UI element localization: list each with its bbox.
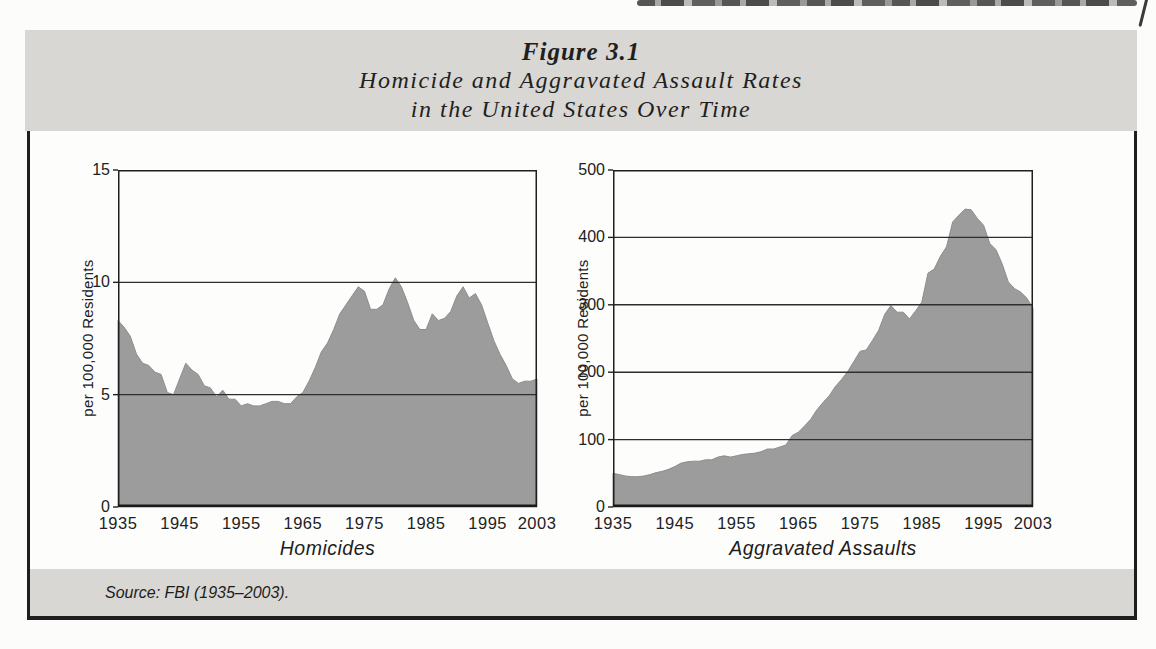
aggravated-assaults-x-tick-label-1975: 1975 [841,514,880,533]
homicides-chart: per 100,000 Residents Homicides 05101519… [118,170,537,507]
aggravated-assaults-x-tick-label-1995: 1995 [964,514,1003,533]
page-corner-mark [1138,0,1148,27]
homicides-x-tick-label-1955: 1955 [222,514,261,533]
homicides-y-tick-label-10: 10 [92,272,110,292]
aggravated-assaults-x-tick-label-1945: 1945 [655,514,694,533]
aggravated-assaults-y-tick-label-400: 400 [578,227,605,247]
source-band: Source: FBI (1935–2003). [30,569,1134,616]
homicides-caption: Homicides [280,537,376,560]
aggravated-assaults-y-tick-label-500: 500 [578,160,605,180]
aggravated-assaults-area [613,209,1033,507]
aggravated-assaults-x-tick-label-1935: 1935 [594,514,633,533]
homicides-x-tick-label-1975: 1975 [345,514,384,533]
homicides-x-tick-label-1945: 1945 [160,514,199,533]
aggravated-assaults-x-tick-label-1955: 1955 [717,514,756,533]
homicides-x-tick-label-2003: 2003 [518,514,557,533]
figure-3-1: Figure 3.1 Homicide and Aggravated Assau… [27,30,1137,620]
homicides-y-tick-label-5: 5 [101,385,110,405]
homicides-x-tick-label-1985: 1985 [407,514,446,533]
aggravated-assaults-x-tick-label-2003: 2003 [1014,514,1053,533]
aggravated-assaults-y-tick-label-100: 100 [578,430,605,450]
figure-title-line-1: Homicide and Aggravated Assault Rates [25,66,1137,95]
aggravated-assaults-x-tick-label-1965: 1965 [779,514,818,533]
figure-number: Figure 3.1 [25,37,1137,66]
homicides-area [118,278,537,507]
source-text: Source: FBI (1935–2003). [105,584,289,602]
scanned-figure-page: Figure 3.1 Homicide and Aggravated Assau… [0,0,1156,649]
figure-body: per 100,000 Residents Homicides 05101519… [27,131,1137,620]
figure-title-line-2: in the United States Over Time [25,95,1137,124]
homicides-x-tick-label-1965: 1965 [283,514,322,533]
aggravated-assaults-y-tick-label-300: 300 [578,295,605,315]
aggravated-assaults-caption: Aggravated Assaults [729,537,917,560]
aggravated-assaults-chart: per 100,000 Residents Aggravated Assault… [613,170,1033,507]
homicides-x-tick-label-1935: 1935 [99,514,138,533]
aggravated-assaults-x-tick-label-1985: 1985 [902,514,941,533]
aggravated-assaults-plot [613,170,1033,507]
cropped-text-artifact [637,0,1137,6]
figure-title-band: Figure 3.1 Homicide and Aggravated Assau… [25,30,1137,131]
aggravated-assaults-y-tick-label-200: 200 [578,362,605,382]
homicides-y-tick-label-15: 15 [92,160,110,180]
homicides-x-tick-label-1995: 1995 [468,514,507,533]
aggravated-assaults-y-axis-label: per 100,000 Residents [574,259,591,416]
homicides-plot [118,170,537,507]
